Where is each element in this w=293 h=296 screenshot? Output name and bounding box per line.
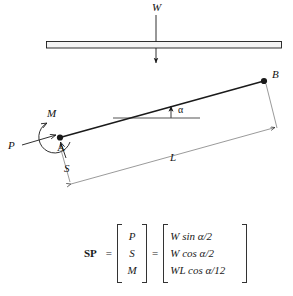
equation-symbol-sp: SP [84, 247, 97, 259]
expression-entry-m: WL cos α/12 [170, 262, 240, 279]
member-ab-line [60, 81, 264, 138]
expression-entry-p: W sin α/2 [170, 228, 240, 245]
moment-m-arc [39, 123, 70, 153]
label-a: A [57, 142, 65, 153]
node-a-dot [57, 134, 63, 140]
equals-sign-2: = [152, 247, 158, 259]
vector-entry-s: S [124, 245, 140, 262]
inclined-member-group [22, 78, 277, 184]
vector-psm: P S M [117, 224, 147, 283]
horizontal-beam [47, 42, 282, 49]
label-m: M [47, 108, 56, 119]
vector-entry-p: P [124, 228, 140, 245]
vector-entry-m: M [124, 262, 140, 279]
top-beam-group [47, 15, 282, 63]
label-w: W [152, 2, 161, 13]
label-alpha: α [178, 105, 183, 115]
expression-entry-s: W cos α/2 [170, 245, 240, 262]
dimension-extension-b [266, 84, 277, 128]
node-b-dot [261, 78, 267, 84]
vector-expressions: W sin α/2 W cos α/2 WL cos α/12 [163, 224, 247, 283]
equals-sign-1: = [106, 247, 112, 259]
matrix-equation: SP = P S M = W sin α/2 W cos α/2 WL cos … [84, 216, 289, 290]
label-s: S [64, 163, 70, 174]
label-p: P [8, 140, 15, 151]
label-b: B [272, 69, 279, 80]
label-l: L [170, 152, 176, 163]
